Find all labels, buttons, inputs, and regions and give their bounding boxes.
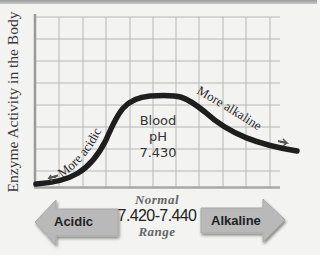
alkaline-arrow-label: Alkaline <box>211 213 261 228</box>
normal-range-label: Normal 7.420-7.440 Range <box>117 193 197 239</box>
blood-ph-label: Blood pH 7.430 <box>139 113 176 160</box>
range-text: Range <box>117 225 197 239</box>
svg-text:pH: pH <box>149 129 167 144</box>
acidic-arrow-label: Acidic <box>54 214 93 229</box>
range-value: 7.420-7.440 <box>117 207 197 225</box>
svg-text:Blood: Blood <box>140 113 177 128</box>
normal-text: Normal <box>117 193 197 207</box>
svg-text:7.430: 7.430 <box>139 145 176 160</box>
more-alkaline-label: More alkaline <box>195 83 265 134</box>
